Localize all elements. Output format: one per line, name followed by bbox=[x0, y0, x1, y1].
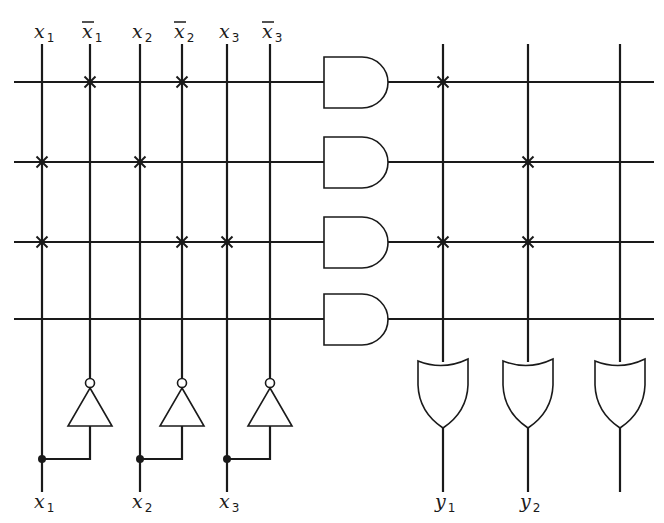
pla-diagram: x1x1x2x2x3x3x1x2x3y1y2 bbox=[0, 0, 664, 523]
and-gate-3 bbox=[324, 217, 388, 268]
junction-dot bbox=[136, 455, 144, 463]
inverter-3 bbox=[223, 379, 292, 464]
or-gate-3 bbox=[595, 359, 645, 428]
input-label-bottom-x1: x1 bbox=[34, 490, 54, 515]
input-label-top-x1n: x1 bbox=[82, 20, 102, 45]
input-label-bottom-x3: x3 bbox=[219, 490, 239, 515]
junction-dot bbox=[223, 455, 231, 463]
gates bbox=[38, 57, 645, 463]
or-gate-2 bbox=[503, 359, 553, 428]
and-gate-2 bbox=[324, 137, 388, 188]
or-gate-1 bbox=[418, 359, 468, 428]
input-label-top-x2n: x2 bbox=[174, 20, 194, 45]
input-label-top-x2: x2 bbox=[132, 20, 152, 45]
labels: x1x1x2x2x3x3x1x2x3y1y2 bbox=[34, 20, 540, 515]
inverter-1 bbox=[38, 379, 112, 464]
inverter-2 bbox=[136, 379, 204, 464]
input-label-top-x3: x3 bbox=[219, 20, 239, 45]
and-gate-4 bbox=[324, 294, 388, 345]
input-label-top-x3n: x3 bbox=[262, 20, 282, 45]
and-gate-1 bbox=[324, 57, 388, 108]
output-label-y2: y2 bbox=[519, 490, 540, 515]
output-label-y1: y1 bbox=[434, 490, 455, 515]
junction-dot bbox=[38, 455, 46, 463]
input-label-bottom-x2: x2 bbox=[132, 490, 152, 515]
input-label-top-x1: x1 bbox=[34, 20, 54, 45]
